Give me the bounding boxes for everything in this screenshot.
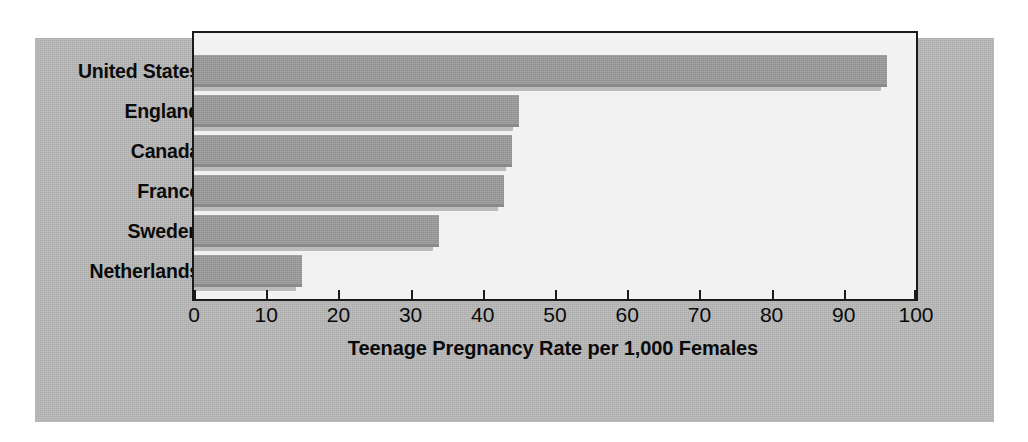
chart-figure: United StatesEnglandCanadaFranceSwedenNe… — [0, 0, 1028, 442]
bar-shadow — [194, 87, 881, 91]
bar-body — [194, 55, 887, 87]
x-tick-label: 0 — [188, 303, 200, 327]
category-label: United States — [20, 61, 200, 81]
bar-body — [194, 255, 302, 287]
category-label: Sweden — [20, 221, 200, 241]
plot-inner — [194, 33, 916, 299]
x-axis-tick — [699, 290, 701, 299]
x-axis-tick — [914, 290, 916, 299]
x-axis-tick — [772, 290, 774, 299]
x-axis-tick — [844, 290, 846, 299]
x-axis-tick — [627, 290, 629, 299]
bar-shadow — [194, 167, 506, 171]
category-label: France — [20, 181, 200, 201]
bar-shadow — [194, 207, 498, 211]
bar-body — [194, 175, 504, 207]
x-tick-label: 70 — [688, 303, 711, 327]
x-tick-label: 60 — [616, 303, 639, 327]
bar-body — [194, 95, 519, 127]
category-label: Canada — [20, 141, 200, 161]
x-tick-label: 100 — [898, 303, 933, 327]
bar-shadow — [194, 247, 433, 251]
x-axis-tick — [411, 290, 413, 299]
x-axis-tick — [483, 290, 485, 299]
x-tick-label: 40 — [471, 303, 494, 327]
x-tick-label: 30 — [399, 303, 422, 327]
x-axis-tick — [555, 290, 557, 299]
category-label: England — [20, 101, 200, 121]
bar — [194, 135, 512, 167]
x-tick-label: 20 — [327, 303, 350, 327]
x-tick-label: 50 — [543, 303, 566, 327]
x-tick-label: 90 — [832, 303, 855, 327]
category-axis-labels: United StatesEnglandCanadaFranceSwedenNe… — [20, 53, 200, 293]
plot-area — [192, 31, 918, 301]
bar — [194, 255, 302, 287]
bar — [194, 55, 887, 87]
x-axis-tick — [338, 290, 340, 299]
bar — [194, 95, 519, 127]
x-tick-label: 10 — [255, 303, 278, 327]
bar-shadow — [194, 127, 513, 131]
bar — [194, 175, 504, 207]
x-axis-tick-labels: 0102030405060708090100 — [192, 303, 918, 333]
bar-body — [194, 215, 439, 247]
bar — [194, 215, 439, 247]
x-axis-tick — [194, 290, 196, 299]
bar-body — [194, 135, 512, 167]
x-axis-title: Teenage Pregnancy Rate per 1,000 Females — [192, 337, 914, 360]
x-axis-tick — [266, 290, 268, 299]
category-label: Netherlands — [20, 261, 200, 281]
x-tick-label: 80 — [760, 303, 783, 327]
bar-shadow — [194, 287, 296, 291]
